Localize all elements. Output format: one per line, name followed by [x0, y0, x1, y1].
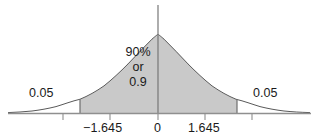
distribution-plot — [0, 0, 317, 138]
tick-label-zero: 0 — [154, 122, 161, 135]
central-area-decimal: 0.9 — [118, 75, 158, 90]
tail-probability-right: 0.05 — [253, 87, 277, 100]
normal-distribution-figure: 0.05 0.05 90% or 0.9 −1.645 0 1.645 — [0, 0, 317, 138]
central-area-percent: 90% — [118, 45, 158, 60]
tail-probability-left: 0.05 — [29, 87, 53, 100]
tick-label-positive-z: 1.645 — [188, 122, 220, 135]
tick-label-negative-z: −1.645 — [83, 122, 122, 135]
central-area-conjunction: or — [118, 60, 158, 75]
central-area-label: 90% or 0.9 — [118, 45, 158, 90]
